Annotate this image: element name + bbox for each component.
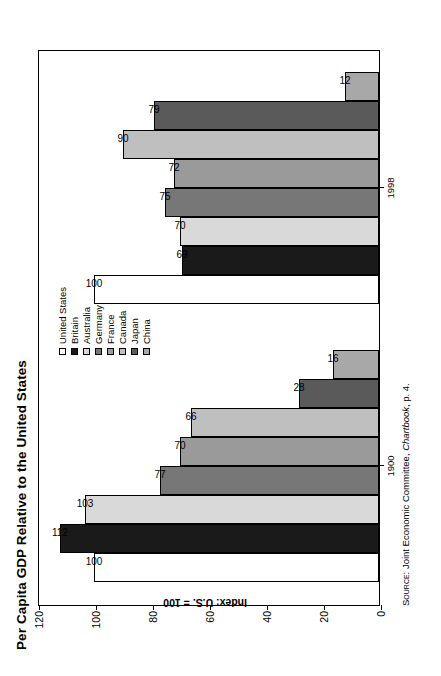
- bar-value-label: 75: [160, 192, 171, 203]
- page-title: Per Capita GDP Relative to the United St…: [14, 360, 29, 650]
- source-suffix: , p. 4.: [400, 383, 411, 407]
- bar-value-label: 72: [168, 163, 179, 174]
- legend-swatch-icon: [71, 348, 78, 355]
- legend-item: United States: [57, 287, 68, 355]
- source-italic: Chartbook: [400, 407, 411, 451]
- y-axis-tick-mark: [324, 605, 325, 610]
- bar: [165, 188, 379, 217]
- bar-value-label: 79: [148, 105, 159, 116]
- legend-swatch-icon: [143, 348, 150, 355]
- bar: [180, 437, 380, 466]
- bar: [123, 130, 380, 159]
- y-axis-tick-mark: [381, 605, 382, 610]
- chart-page: Per Capita GDP Relative to the United St…: [0, 0, 441, 676]
- source-note: Source: Joint Economic Committee, Chartb…: [400, 383, 411, 606]
- y-axis-tick-label: 20: [318, 611, 330, 635]
- bar: [154, 101, 379, 130]
- x-axis-group-label: 1900: [385, 455, 396, 476]
- legend-swatch-icon: [107, 348, 114, 355]
- legend-item: China: [141, 287, 152, 355]
- bar: [174, 159, 379, 188]
- bar-value-label: 70: [174, 441, 185, 452]
- bar: [160, 466, 379, 495]
- x-axis-tick-mark: [379, 465, 384, 466]
- legend-swatch-icon: [59, 348, 66, 355]
- y-axis-tick-mark: [39, 605, 40, 610]
- x-axis-group-label: 1998: [385, 177, 396, 198]
- legend: United StatesBritainAustraliaGermanyFran…: [57, 287, 153, 355]
- y-axis-tick-mark: [153, 605, 154, 610]
- bar: [191, 408, 379, 437]
- legend-item: Australia: [81, 287, 92, 355]
- bar-value-label: 69: [177, 250, 188, 261]
- bar: [333, 350, 379, 379]
- legend-swatch-icon: [83, 348, 90, 355]
- legend-swatch-icon: [119, 348, 126, 355]
- legend-swatch-icon: [131, 348, 138, 355]
- legend-swatch-icon: [95, 348, 102, 355]
- legend-item-label: United States: [57, 287, 68, 344]
- bar-value-label: 112: [52, 528, 68, 539]
- y-axis-tick-mark: [210, 605, 211, 610]
- y-axis-tick-label: 120: [33, 611, 45, 635]
- legend-item-label: Canada: [117, 311, 128, 344]
- plot-area: Index: U.S. = 100 120100806040200 190019…: [38, 50, 380, 606]
- legend-item-label: France: [105, 314, 116, 344]
- bar-value-label: 16: [328, 354, 339, 365]
- y-axis-tick-label: 80: [147, 611, 159, 635]
- bar-value-label: 103: [77, 499, 94, 510]
- bar: [180, 217, 380, 246]
- bar: [85, 495, 379, 524]
- y-axis-tick-label: 0: [375, 611, 387, 635]
- bar: [94, 553, 379, 582]
- bar-value-label: 66: [185, 412, 196, 423]
- legend-item: Britain: [69, 287, 80, 355]
- source-prefix: Source:: [400, 572, 411, 606]
- bar: [299, 379, 379, 408]
- bar: [182, 246, 379, 275]
- y-axis-tick-label: 100: [90, 611, 102, 635]
- bar: [60, 524, 379, 553]
- bar-value-label: 77: [154, 470, 165, 481]
- source-text: Joint Economic Committee,: [400, 451, 411, 572]
- y-axis-tick-label: 40: [261, 611, 273, 635]
- legend-item: France: [105, 287, 116, 355]
- y-axis-tick-mark: [96, 605, 97, 610]
- y-axis-tick-label: 60: [204, 611, 216, 635]
- legend-item-label: Britain: [69, 317, 80, 344]
- bar-value-label: 70: [174, 221, 185, 232]
- bar-value-label: 12: [339, 76, 350, 87]
- legend-item-label: Japan: [129, 318, 140, 344]
- legend-item-label: Germany: [93, 305, 104, 344]
- x-axis-tick-mark: [379, 187, 384, 188]
- legend-item: Canada: [117, 287, 128, 355]
- bar-value-label: 100: [86, 557, 103, 568]
- legend-item-label: Australia: [81, 307, 92, 344]
- bar-value-label: 90: [117, 134, 128, 145]
- y-axis-tick-mark: [267, 605, 268, 610]
- legend-item-label: China: [141, 319, 152, 344]
- legend-item: Japan: [129, 287, 140, 355]
- bar-value-label: 28: [294, 383, 305, 394]
- legend-item: Germany: [93, 287, 104, 355]
- y-axis-label: Index: U.S. = 100: [163, 597, 247, 609]
